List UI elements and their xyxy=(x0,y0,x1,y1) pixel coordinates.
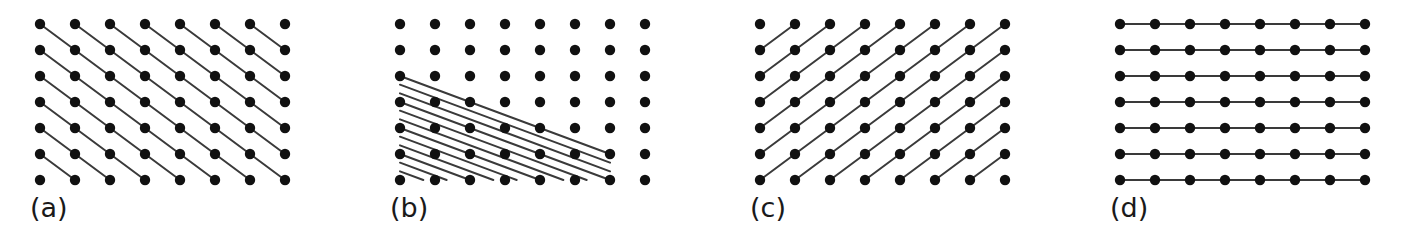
lattice-point xyxy=(1150,71,1160,81)
lattice-point xyxy=(1360,149,1370,159)
lattice-point xyxy=(1360,97,1370,107)
lattice-point xyxy=(1185,45,1195,55)
lattice-point xyxy=(1220,71,1230,81)
lattice-point xyxy=(1000,123,1010,133)
lattice-plane-line xyxy=(760,24,935,154)
lattice-point xyxy=(1325,123,1335,133)
lattice-point xyxy=(465,97,475,107)
lattice-point xyxy=(1290,45,1300,55)
lattice-point xyxy=(395,149,405,159)
lattice-point xyxy=(535,123,545,133)
lattice-point xyxy=(790,19,800,29)
lattice-plane-line xyxy=(180,24,285,102)
lattice-plane-line xyxy=(400,163,447,180)
lattice-point xyxy=(535,71,545,81)
lattice-point xyxy=(930,97,940,107)
lattice-point xyxy=(605,175,615,185)
lattice-point xyxy=(1185,97,1195,107)
panel-d-label: (d) xyxy=(1110,192,1148,224)
lattice-point xyxy=(210,123,220,133)
panel-c: (c) xyxy=(720,0,1080,230)
lattice-point xyxy=(1325,149,1335,159)
lattice-point xyxy=(965,175,975,185)
lattice-point xyxy=(1255,19,1265,29)
lattice-point xyxy=(640,71,650,81)
lattice-plane-line xyxy=(400,111,587,180)
panel-c-label: (c) xyxy=(750,192,786,224)
lattice-point xyxy=(895,149,905,159)
panel-b-diagram xyxy=(360,0,720,196)
lattice-point xyxy=(755,123,765,133)
lattice-point xyxy=(35,45,45,55)
panel-c-diagram xyxy=(720,0,1080,196)
lattice-point xyxy=(1150,19,1160,29)
lattice-point xyxy=(1360,71,1370,81)
lattice-point xyxy=(930,149,940,159)
lattice-point xyxy=(1255,175,1265,185)
lattice-point xyxy=(640,149,650,159)
lattice-point xyxy=(395,123,405,133)
lattice-point xyxy=(210,175,220,185)
lattice-point xyxy=(1290,71,1300,81)
lattice-point xyxy=(1000,45,1010,55)
lattice-point xyxy=(280,123,290,133)
lattice-point xyxy=(930,71,940,81)
lattice-point xyxy=(1290,97,1300,107)
lattice-point xyxy=(860,149,870,159)
lattice-point xyxy=(755,149,765,159)
lattice-point xyxy=(175,45,185,55)
lattice-point xyxy=(1185,123,1195,133)
lattice-point xyxy=(500,45,510,55)
lattice-point xyxy=(1325,45,1335,55)
lattice-planes-figure: (a) (b) (c) (d) xyxy=(0,0,1417,230)
lattice-point xyxy=(430,71,440,81)
lattice-point xyxy=(1115,19,1125,29)
lattice-point xyxy=(965,71,975,81)
lattice-point xyxy=(1290,19,1300,29)
lattice-point xyxy=(1360,175,1370,185)
lattice-point xyxy=(895,71,905,81)
lattice-point xyxy=(500,19,510,29)
lattice-point xyxy=(140,175,150,185)
lattice-point xyxy=(755,175,765,185)
lattice-point xyxy=(1360,45,1370,55)
lattice-point xyxy=(930,123,940,133)
lattice-point xyxy=(70,123,80,133)
lattice-point xyxy=(1115,71,1125,81)
lattice-point xyxy=(605,19,615,29)
lattice-point xyxy=(1255,149,1265,159)
lattice-plane-line xyxy=(40,102,145,180)
lattice-point xyxy=(1185,71,1195,81)
lattice-point xyxy=(245,19,255,29)
lattice-point xyxy=(965,149,975,159)
lattice-point xyxy=(570,149,580,159)
lattice-point xyxy=(140,123,150,133)
lattice-point xyxy=(430,97,440,107)
lattice-point xyxy=(140,149,150,159)
lattice-point xyxy=(70,71,80,81)
lattice-point xyxy=(825,123,835,133)
panel-a-diagram xyxy=(0,0,360,196)
lattice-point xyxy=(140,97,150,107)
lattice-plane-line xyxy=(400,137,517,180)
lattice-point xyxy=(210,149,220,159)
lattice-point xyxy=(640,97,650,107)
lattice-point xyxy=(465,19,475,29)
lattice-point xyxy=(245,45,255,55)
lattice-point xyxy=(1115,175,1125,185)
lattice-point xyxy=(860,45,870,55)
lattice-point xyxy=(1115,149,1125,159)
lattice-point xyxy=(465,45,475,55)
lattice-plane-line xyxy=(400,76,610,154)
lattice-point xyxy=(35,175,45,185)
lattice-point xyxy=(500,175,510,185)
lattice-point xyxy=(280,45,290,55)
lattice-point xyxy=(395,71,405,81)
lattice-point xyxy=(280,175,290,185)
lattice-point xyxy=(1115,123,1125,133)
lattice-point xyxy=(1290,175,1300,185)
lattice-point xyxy=(1360,19,1370,29)
lattice-point xyxy=(175,175,185,185)
lattice-point xyxy=(1255,97,1265,107)
lattice-point xyxy=(895,97,905,107)
